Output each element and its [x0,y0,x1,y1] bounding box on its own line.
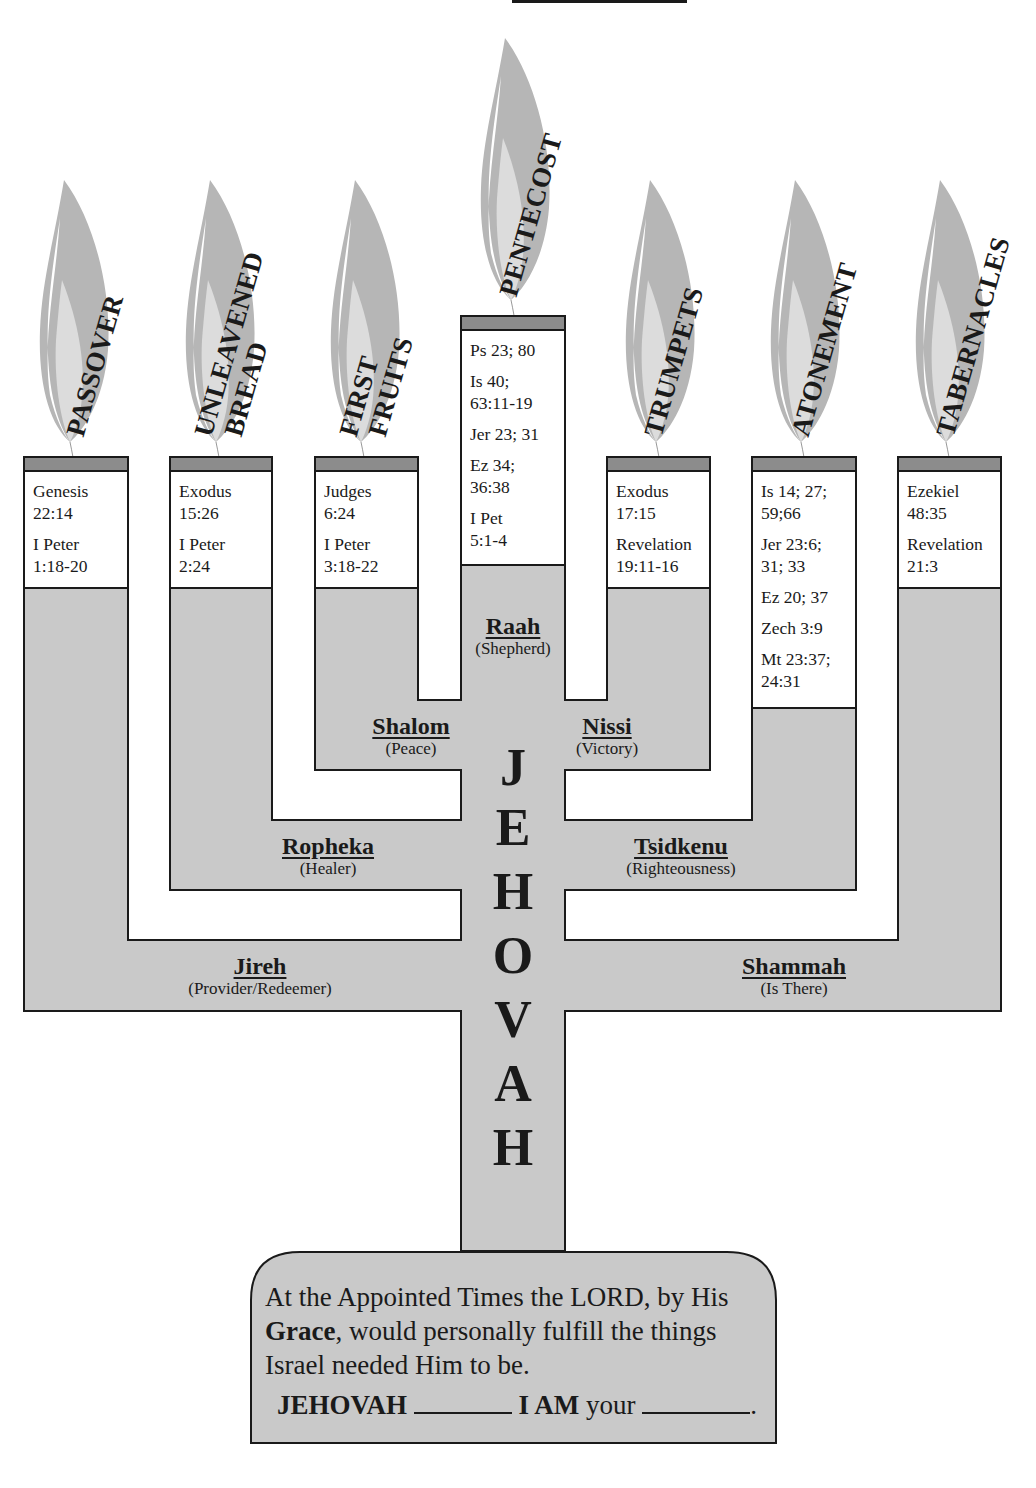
menorah-diagram [0,0,1036,1488]
base-plaque [251,1252,776,1443]
